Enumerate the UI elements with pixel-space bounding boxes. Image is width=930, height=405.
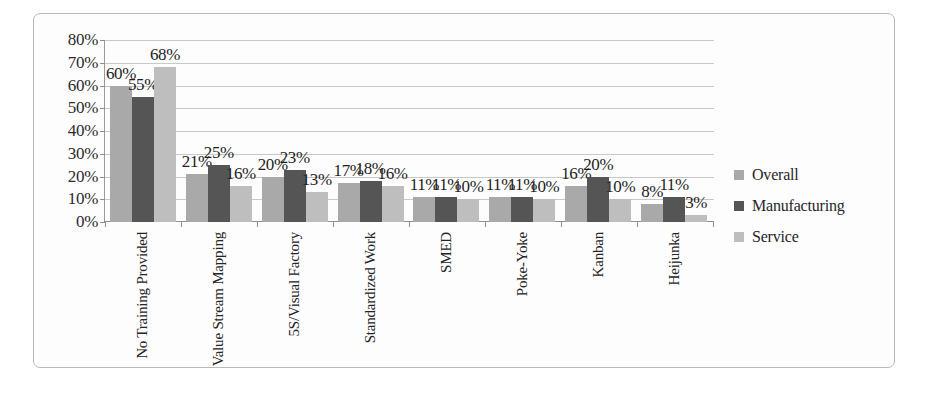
bar-manufacturing-4[interactable]: 11% [435,197,457,222]
bar-manufacturing-3[interactable]: 18% [360,181,382,222]
x-axis-category-labels: No Training ProvidedValue Stream Mapping… [104,228,712,368]
bar-value-label: 11% [659,175,688,195]
bar-group: 16%20%10% [560,40,636,222]
x-tick-mark [713,222,714,227]
bar-group: 11%11%10% [484,40,560,222]
chart-legend: OverallManufacturingService [734,166,884,259]
bar-groups: 60%55%68%21%25%16%20%23%13%17%18%16%11%1… [105,40,712,222]
bar-value-label: 16% [378,164,408,184]
bar-service-1[interactable]: 16% [230,186,252,222]
bar-service-6[interactable]: 10% [609,199,631,222]
bar-value-label: 17% [334,161,364,181]
legend-label: Service [752,228,799,246]
bar-overall-7[interactable]: 8% [641,204,663,222]
bar-value-label: 60% [106,64,136,84]
legend-swatch-icon [734,170,744,180]
bar-service-0[interactable]: 68% [154,67,176,222]
bar-overall-2[interactable]: 20% [262,177,284,223]
bar-group: 17%18%16% [333,40,409,222]
bar-value-label: 13% [302,170,332,190]
bar-value-label: 11% [410,175,439,195]
x-tick-mark [637,222,638,227]
bar-overall-1[interactable]: 21% [186,174,208,222]
x-axis-label-text: Standardized Work [362,232,379,343]
bar-value-label: 8% [641,182,663,202]
x-axis-label-0: No Training Provided [104,228,180,368]
bar-manufacturing-5[interactable]: 11% [511,197,533,222]
y-axis-tick-60: 60% [68,76,98,96]
x-axis-label-text: SMED [438,232,455,273]
x-tick-mark [105,222,106,227]
y-tick-mark [100,108,105,109]
bar-value-label: 11% [432,175,461,195]
legend-swatch-icon [734,201,744,211]
y-tick-mark [100,199,105,200]
bar-group: 8%11%3% [636,40,712,222]
plot-wrapper: 0%10%20%30%40%50%60%70%80% 60%55%68%21%2… [34,14,896,369]
bar-value-label: 11% [486,175,515,195]
bar-overall-3[interactable]: 17% [338,183,360,222]
y-axis-tick-80: 80% [68,30,98,50]
x-tick-mark [333,222,334,227]
bar-group: 11%11%10% [409,40,485,222]
bar-value-label: 23% [280,148,310,168]
plot-area: 60%55%68%21%25%16%20%23%13%17%18%16%11%1… [104,40,712,222]
bar-manufacturing-1[interactable]: 25% [208,165,230,222]
legend-label: Overall [752,166,799,184]
legend-label: Manufacturing [752,197,844,215]
bar-overall-4[interactable]: 11% [413,197,435,222]
y-axis-tick-0: 0% [76,212,98,232]
bar-service-2[interactable]: 13% [306,192,328,222]
y-tick-mark [100,40,105,41]
x-axis-label-2: 5S/Visual Factory [256,228,332,368]
bar-group: 21%25%16% [181,40,257,222]
bar-service-5[interactable]: 10% [533,199,555,222]
bar-overall-5[interactable]: 11% [489,197,511,222]
bar-value-label: 11% [508,175,537,195]
x-tick-mark [485,222,486,227]
x-tick-mark [409,222,410,227]
x-axis-label-7: Heijunka [636,228,712,368]
x-axis-label-text: Poke-Yoke [514,232,531,296]
legend-item-overall[interactable]: Overall [734,166,884,184]
bar-overall-6[interactable]: 16% [565,186,587,222]
y-axis-tick-50: 50% [68,98,98,118]
bar-overall-0[interactable]: 60% [110,86,132,223]
bar-value-label: 18% [356,159,386,179]
y-axis-tick-labels: 0%10%20%30%40%50%60%70%80% [42,40,98,222]
y-axis-tick-40: 40% [68,121,98,141]
y-tick-mark [100,154,105,155]
legend-item-manufacturing[interactable]: Manufacturing [734,197,884,215]
x-tick-mark [257,222,258,227]
y-axis-tick-30: 30% [68,144,98,164]
bar-manufacturing-2[interactable]: 23% [284,170,306,222]
chart-container: 0%10%20%30%40%50%60%70%80% 60%55%68%21%2… [33,13,895,368]
bar-value-label: 25% [204,143,234,163]
x-axis-label-6: Kanban [560,228,636,368]
x-axis-label-text: Heijunka [666,232,683,285]
bar-service-4[interactable]: 10% [457,199,479,222]
bar-service-7[interactable]: 3% [685,215,707,222]
y-tick-mark [100,86,105,87]
bar-value-label: 20% [583,155,613,175]
x-axis-label-text: No Training Provided [134,232,151,359]
x-axis-label-5: Poke-Yoke [484,228,560,368]
y-axis-tick-70: 70% [68,53,98,73]
legend-item-service[interactable]: Service [734,228,884,246]
x-tick-mark [181,222,182,227]
x-axis-label-4: SMED [408,228,484,368]
y-tick-mark [100,177,105,178]
y-tick-mark [100,131,105,132]
bar-value-label: 10% [605,177,635,197]
x-axis-label-text: Value Stream Mapping [210,232,227,366]
x-axis-label-text: 5S/Visual Factory [286,232,303,336]
bar-manufacturing-6[interactable]: 20% [587,177,609,223]
x-axis-label-text: Kanban [590,232,607,277]
bar-value-label: 10% [529,177,559,197]
bar-service-3[interactable]: 16% [382,186,404,222]
bar-value-label: 3% [685,193,707,213]
bar-manufacturing-7[interactable]: 11% [663,197,685,222]
y-tick-mark [100,63,105,64]
bar-value-label: 16% [226,164,256,184]
bar-manufacturing-0[interactable]: 55% [132,97,154,222]
